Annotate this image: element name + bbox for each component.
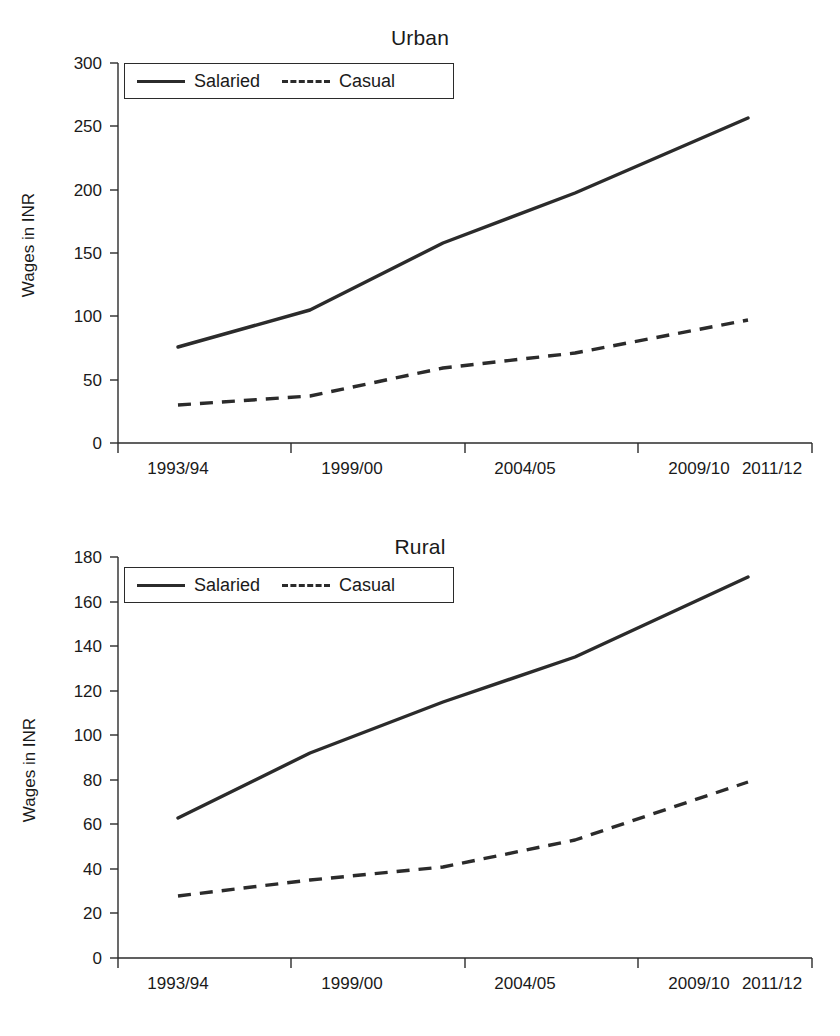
legend-entry-salaried-rural: Salaried [137, 575, 260, 596]
legend-label-salaried-rural: Salaried [194, 575, 260, 596]
y-tick-label-urban: 150 [40, 244, 102, 264]
y-tick-label-rural: 60 [40, 815, 102, 835]
series-line-casual-urban [178, 320, 748, 405]
x-tick-label-urban: 1999/00 [287, 459, 417, 479]
x-tick-label-rural: 2004/05 [460, 974, 590, 994]
x-tick-label-rural: 1999/00 [287, 974, 417, 994]
chart-panel-rural: Rural Wages in INR [0, 505, 840, 1036]
x-tick-label-urban: 1993/94 [113, 459, 243, 479]
legend-entry-casual-urban: Casual [282, 71, 395, 92]
legend-rural: Salaried Casual [124, 567, 454, 603]
legend-entry-salaried-urban: Salaried [137, 71, 260, 92]
series-line-salaried-rural [178, 577, 748, 818]
legend-label-salaried-urban: Salaried [194, 71, 260, 92]
y-axis-ticks-urban [110, 63, 118, 443]
figure-root: Urban Wages in INR [0, 0, 840, 1036]
y-tick-label-rural: 160 [40, 593, 102, 613]
y-tick-label-urban: 300 [40, 54, 102, 74]
y-tick-label-urban: 100 [40, 307, 102, 327]
x-tick-label-rural: 1993/94 [113, 974, 243, 994]
y-axis-ticks-rural [110, 557, 118, 958]
x-tick-label-rural: 2011/12 [707, 974, 837, 994]
series-line-salaried-urban [178, 118, 748, 347]
legend-label-casual-rural: Casual [339, 575, 395, 596]
y-tick-label-urban: 0 [40, 434, 102, 454]
axes-urban [118, 63, 812, 443]
y-tick-label-rural: 100 [40, 726, 102, 746]
y-tick-label-rural: 40 [40, 860, 102, 880]
chart-panel-urban: Urban Wages in INR [0, 0, 840, 505]
axes-rural [118, 557, 812, 958]
legend-urban: Salaried Casual [124, 63, 454, 99]
y-tick-label-urban: 50 [40, 371, 102, 391]
y-tick-label-rural: 20 [40, 904, 102, 924]
y-tick-label-urban: 250 [40, 117, 102, 137]
y-tick-label-rural: 0 [40, 949, 102, 969]
y-tick-label-rural: 80 [40, 771, 102, 791]
y-tick-label-rural: 120 [40, 682, 102, 702]
legend-swatch-dashed-icon [282, 80, 330, 83]
legend-entry-casual-rural: Casual [282, 575, 395, 596]
legend-swatch-solid-icon [137, 584, 185, 587]
y-tick-label-rural: 140 [40, 637, 102, 657]
x-tick-label-urban: 2011/12 [707, 459, 837, 479]
y-tick-label-rural: 180 [40, 548, 102, 568]
legend-label-casual-urban: Casual [339, 71, 395, 92]
legend-swatch-solid-icon [137, 80, 185, 83]
series-line-casual-rural [178, 782, 748, 896]
y-tick-label-urban: 200 [40, 181, 102, 201]
x-axis-ticks-rural [118, 958, 812, 968]
x-tick-label-urban: 2004/05 [460, 459, 590, 479]
x-axis-ticks-urban [118, 443, 812, 453]
legend-swatch-dashed-icon [282, 584, 330, 587]
